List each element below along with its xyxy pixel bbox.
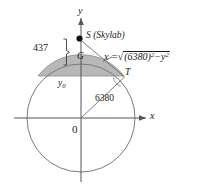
skylab-point-label: S (Skylab) [86, 31, 125, 41]
equation-label: x =√(6380)2−y2 [104, 51, 170, 63]
skylab-point-marker [76, 35, 82, 41]
ground-point-label: G [77, 52, 84, 62]
lower-bound-subscript: 0 [62, 82, 65, 89]
lower-bound-label: y0 [58, 79, 66, 90]
y-axis-label: y [78, 6, 82, 16]
altitude-measure-label: 437 [33, 43, 48, 53]
origin-label: 0 [72, 124, 78, 135]
radicand-base: (6380) [124, 51, 151, 62]
radius-measure-label: 6380 [95, 94, 114, 104]
radicand: (6380)2−y2 [123, 51, 170, 63]
equation-lhs: x = [104, 51, 118, 62]
x-axis-arrowhead [139, 115, 146, 121]
skylab-geometry-figure: y x 0 S (Skylab) G T 437 y0 6380 x =√(63… [0, 0, 209, 191]
y-axis-arrowhead [78, 18, 84, 25]
tangent-point-label: T [125, 68, 130, 78]
radicand-var-exponent: 2 [166, 51, 170, 59]
x-axis-label: x [150, 111, 154, 121]
